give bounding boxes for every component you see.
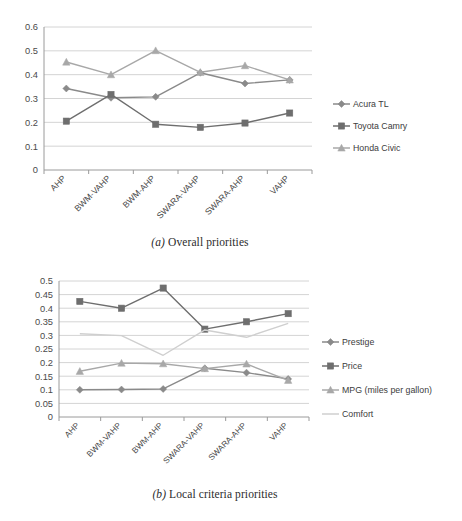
series-honda-civic <box>63 47 294 83</box>
y-axis-tick-label: 0.3 <box>25 94 38 104</box>
x-axis-category-label: BWM-VAHP <box>72 173 112 213</box>
data-point-marker <box>243 369 250 376</box>
data-point-marker <box>153 121 159 127</box>
data-point-marker <box>118 305 124 311</box>
series-line <box>80 368 288 389</box>
x-axis-category-label: SWARA-AHP <box>207 421 249 463</box>
series-comfort <box>80 323 288 355</box>
legend-item-label: Honda Civic <box>353 143 401 153</box>
data-point-marker <box>63 58 70 65</box>
data-point-marker <box>327 363 333 369</box>
series-toyota-camry <box>63 91 293 130</box>
legend-item-label: Acura TL <box>353 99 389 109</box>
data-point-marker <box>76 386 83 393</box>
x-axis-category-label: SWARA-VAHP <box>154 173 201 220</box>
y-axis-tick-label: 0.05 <box>35 399 53 409</box>
chart-local-criteria-priorities: 00.050.10.150.20.250.30.350.40.450.5AHPB… <box>0 260 462 485</box>
data-point-marker <box>152 93 159 100</box>
data-point-marker <box>63 85 70 92</box>
data-point-marker <box>338 123 344 129</box>
y-axis-tick-label: 0 <box>48 412 53 422</box>
y-axis-tick-label: 0.1 <box>40 385 53 395</box>
y-axis-tick-label: 0.5 <box>40 276 53 286</box>
chart-legend: Acura TLToyota CamryHonda Civic <box>333 99 408 153</box>
data-point-marker <box>242 80 249 87</box>
figure-local-criteria-priorities: 00.050.10.150.20.250.30.350.40.450.5AHPB… <box>0 260 462 521</box>
x-axis-category-label: SWARA-VAHP <box>162 421 207 466</box>
data-point-marker <box>108 91 114 97</box>
caption-text-b: Local criteria priorities <box>169 488 278 500</box>
series-line <box>80 363 288 380</box>
x-axis-category-label: SWARA-AHP <box>203 173 247 217</box>
data-point-marker <box>152 47 159 54</box>
x-axis-category-label: BWM-VAHP <box>85 421 123 459</box>
y-axis-tick-label: 0.15 <box>35 372 53 382</box>
data-point-marker <box>77 298 83 304</box>
x-axis-category-label: BWM-AHP <box>121 173 158 210</box>
gridlines <box>44 27 312 146</box>
legend-item-label: Comfort <box>342 409 374 419</box>
data-point-marker <box>243 319 249 325</box>
legend-item-label: Prestige <box>342 337 374 347</box>
caption-marker-a: (a) <box>151 236 165 248</box>
chart-overall-priorities: 00.10.20.30.40.50.6AHPBWM-VAHPBWM-AHPSWA… <box>0 0 462 232</box>
series-line <box>66 73 289 98</box>
caption-text-a: Overall priorities <box>168 236 249 248</box>
y-axis-tick-label: 0.4 <box>25 70 38 80</box>
series-acura-tl <box>63 69 293 101</box>
y-axis-tick-label: 0.3 <box>40 331 53 341</box>
y-axis-tick-label: 0.4 <box>40 304 53 314</box>
y-axis-tick-label: 0.25 <box>35 344 53 354</box>
data-point-marker <box>118 386 125 393</box>
y-axis-tick-label: 0.1 <box>25 142 38 152</box>
y-axis-tick-label: 0.35 <box>35 317 53 327</box>
legend-item-label: Price <box>342 361 362 371</box>
data-point-marker <box>242 120 248 126</box>
data-point-marker <box>160 285 166 291</box>
series-line <box>66 51 289 80</box>
chart-legend: PrestigePriceMPG (miles per gallon)Comfo… <box>322 337 432 419</box>
x-axis-category-label: VAHP <box>268 421 290 443</box>
data-point-marker <box>160 385 167 392</box>
y-axis-tick-label: 0.6 <box>25 22 38 32</box>
x-axis-category-label: BWM-AHP <box>130 421 165 456</box>
figure-overall-priorities: 00.10.20.30.40.50.6AHPBWM-VAHPBWM-AHPSWA… <box>0 0 462 260</box>
data-point-marker <box>197 124 203 130</box>
y-axis-tick-label: 0.5 <box>25 46 38 56</box>
series-line <box>80 323 288 355</box>
data-point-marker <box>285 311 291 317</box>
y-axis-tick-label: 0.2 <box>40 358 53 368</box>
data-point-marker <box>338 101 345 108</box>
figure-caption-b: (b) Local criteria priorities <box>0 488 430 500</box>
x-axis-category-label: AHP <box>63 421 82 440</box>
data-point-marker <box>63 118 69 124</box>
legend-item-label: MPG (miles per gallon) <box>342 385 432 395</box>
y-axis-tick-label: 0 <box>33 165 38 175</box>
caption-marker-b: (b) <box>152 488 166 500</box>
y-axis-tick-label: 0.45 <box>35 290 53 300</box>
x-axis-category-label: VAHP <box>268 173 291 196</box>
figure-caption-a: (a) Overall priorities <box>0 236 400 248</box>
x-axis-category-label: AHP <box>48 173 68 193</box>
data-point-marker <box>287 110 293 116</box>
y-axis-tick-label: 0.2 <box>25 118 38 128</box>
data-point-marker <box>327 339 334 346</box>
legend-item-label: Toyota Camry <box>353 121 408 131</box>
